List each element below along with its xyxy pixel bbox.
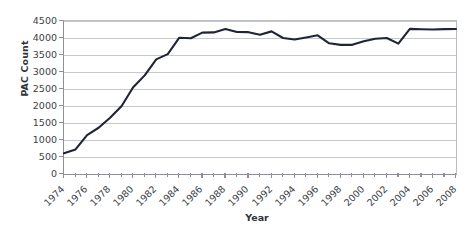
y-tick-label: 500 xyxy=(17,151,57,162)
x-tick-mark xyxy=(98,173,99,177)
y-tick-label: 2000 xyxy=(17,100,57,111)
x-tick-mark xyxy=(213,173,214,177)
x-tick-mark xyxy=(247,173,248,178)
x-axis-title: Year xyxy=(0,212,474,223)
x-tick-mark xyxy=(282,173,283,177)
x-tick-mark xyxy=(363,173,364,178)
y-tick-label: 4000 xyxy=(17,32,57,43)
x-tick-mark xyxy=(443,173,444,177)
y-tick-mark xyxy=(59,88,63,89)
y-tick-mark xyxy=(59,139,63,140)
x-tick-mark xyxy=(224,173,225,178)
x-tick-mark xyxy=(409,173,410,178)
y-tick-mark xyxy=(59,20,63,21)
y-tick-mark xyxy=(59,71,63,72)
x-tick-mark xyxy=(271,173,272,178)
x-tick-mark xyxy=(386,173,387,178)
x-tick-mark xyxy=(432,173,433,178)
x-tick-mark xyxy=(420,173,421,177)
x-tick-mark xyxy=(317,173,318,178)
x-tick-mark xyxy=(397,173,398,177)
x-tick-mark xyxy=(144,173,145,177)
y-tick-label: 3500 xyxy=(17,49,57,60)
x-tick-mark xyxy=(109,173,110,178)
x-tick-mark xyxy=(305,173,306,177)
y-tick-label: 2500 xyxy=(17,83,57,94)
x-tick-mark xyxy=(86,173,87,178)
x-tick-mark xyxy=(167,173,168,177)
x-tick-mark xyxy=(351,173,352,177)
x-tick-mark xyxy=(374,173,375,177)
x-tick-mark xyxy=(190,173,191,177)
x-tick-mark xyxy=(455,173,456,178)
y-tick-mark xyxy=(59,156,63,157)
x-tick-mark xyxy=(155,173,156,178)
y-tick-label: 3000 xyxy=(17,66,57,77)
pac-count-line-chart: PAC Count 050010001500200025003000350040… xyxy=(0,0,474,233)
y-tick-label: 1000 xyxy=(17,134,57,145)
y-tick-mark xyxy=(59,105,63,106)
x-tick-mark xyxy=(236,173,237,177)
y-tick-mark xyxy=(59,122,63,123)
y-tick-label: 0 xyxy=(17,168,57,179)
x-tick-mark xyxy=(63,173,64,178)
x-tick-mark xyxy=(259,173,260,177)
series-line-pac-count xyxy=(64,21,456,174)
x-tick-mark xyxy=(121,173,122,177)
plot-area xyxy=(63,20,457,175)
x-tick-mark xyxy=(75,173,76,177)
x-tick-mark xyxy=(340,173,341,178)
x-tick-mark xyxy=(294,173,295,178)
y-tick-mark xyxy=(59,54,63,55)
x-tick-mark xyxy=(178,173,179,178)
x-tick-mark xyxy=(328,173,329,177)
x-tick-mark xyxy=(201,173,202,178)
y-tick-mark xyxy=(59,37,63,38)
y-tick-label: 4500 xyxy=(17,15,57,26)
x-tick-mark xyxy=(132,173,133,178)
y-tick-label: 1500 xyxy=(17,117,57,128)
